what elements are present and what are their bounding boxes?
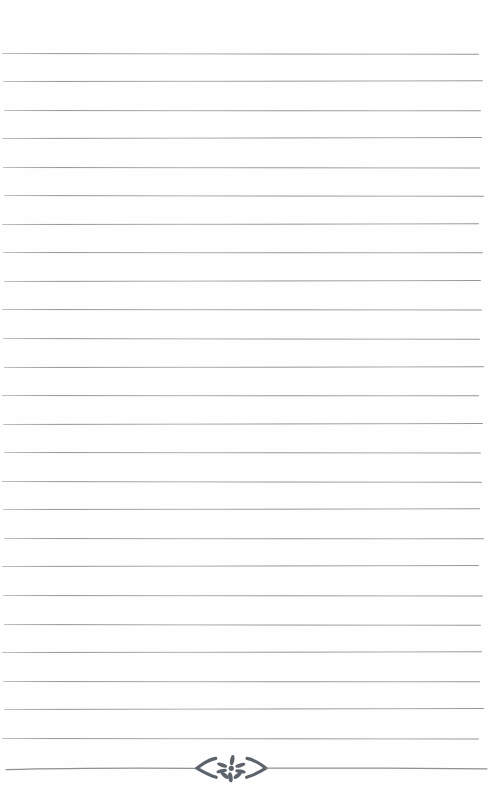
ruled-line	[2, 137, 482, 139]
ruled-line	[3, 338, 480, 340]
ruled-line	[3, 595, 483, 597]
right-chevron-icon	[247, 758, 266, 777]
ruled-line	[2, 223, 479, 225]
ruled-line	[3, 509, 480, 511]
ruled-line	[2, 395, 479, 397]
ruled-line	[4, 538, 484, 540]
ruled-line	[2, 565, 479, 567]
ruled-line	[4, 708, 484, 710]
ruled-line	[4, 366, 484, 368]
divider-rule-right	[266, 768, 487, 769]
ruled-line	[3, 423, 483, 425]
ruled-line	[4, 280, 481, 282]
ruled-line	[2, 651, 482, 653]
ruled-line	[2, 738, 479, 740]
footer-divider	[0, 750, 494, 785]
ruled-line	[4, 624, 481, 626]
ruled-line	[4, 110, 481, 112]
ruled-line	[4, 195, 484, 197]
ruled-line	[4, 452, 481, 454]
ruled-line	[2, 309, 482, 311]
journal-page	[0, 0, 494, 785]
ruled-line	[2, 53, 479, 55]
ruled-line	[3, 681, 480, 683]
ruled-line	[3, 167, 480, 169]
flower-rosette-icon	[216, 755, 246, 783]
ruled-line	[3, 80, 483, 82]
left-chevron-icon	[197, 758, 216, 777]
ruled-line	[3, 252, 483, 254]
ruled-line	[2, 481, 482, 483]
divider-rule-left	[6, 768, 196, 769]
